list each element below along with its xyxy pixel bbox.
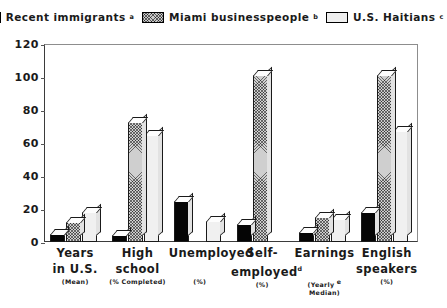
chart-legend: Recent immigrants a Miami businesspeople…: [0, 6, 430, 28]
bar-front-face: [51, 235, 64, 241]
bar-side-face: [142, 113, 147, 236]
y-axis-tick-label-100: 100: [3, 71, 39, 84]
bar-group: [231, 44, 293, 242]
x-label-line1: Unemployed: [169, 246, 231, 261]
x-axis-group-label: Unemployed (%): [169, 246, 231, 286]
bar-miami-businesspeople: [128, 122, 143, 242]
x-label-note: (% Completed): [106, 278, 168, 286]
bar-front-face: [238, 225, 251, 241]
bar-front-face: [362, 213, 375, 241]
legend-footnote-b: b: [313, 13, 318, 21]
y-axis-tick-label-120: 120: [3, 38, 39, 51]
bar-front-face: [113, 236, 126, 241]
bar-group: [106, 44, 168, 242]
legend-footnote-a: a: [130, 13, 134, 21]
x-label-line2: [169, 261, 231, 277]
y-axis-tick-label-60: 60: [3, 137, 39, 150]
bar-front-face: [300, 233, 313, 241]
bar-recent-immigrants: [299, 232, 314, 242]
y-axis-tick-label-40: 40: [3, 170, 39, 183]
x-label-line1: Self-: [231, 246, 293, 261]
x-label-line2: [293, 261, 355, 277]
bar-front-face: [394, 132, 407, 241]
bar-recent-immigrants: [361, 212, 376, 242]
legend-footnote-c: c: [440, 13, 444, 21]
legend-swatch-cross-hatch-icon: [142, 12, 164, 23]
x-label-line1: English: [356, 246, 418, 261]
bar-group: [356, 44, 418, 242]
bar-recent-immigrants: [174, 201, 189, 242]
x-axis-group-label: Highschool(% Completed): [106, 246, 168, 286]
bar-side-face: [391, 67, 396, 236]
x-axis-group-label: Self-employedd(%): [231, 246, 293, 289]
y-axis: 020406080100120: [3, 30, 39, 245]
bar-side-face: [267, 67, 272, 236]
legend-swatch-light-gray-icon: [326, 12, 348, 23]
x-label-note: (Yearly eMedian): [293, 278, 355, 297]
legend-entry-miami-businesspeople: Miami businesspeople b: [142, 11, 322, 23]
bar-group: [293, 44, 355, 242]
x-label-note-line2: Median): [293, 289, 355, 297]
x-label-note: (%): [231, 281, 293, 289]
bar-recent-immigrants: [50, 234, 65, 242]
x-axis: Yearsin U.S.(Mean)Highschool(% Completed…: [44, 246, 418, 308]
bar-front-face: [207, 222, 220, 241]
x-label-line1: High: [106, 246, 168, 261]
bar-recent-immigrants: [237, 224, 252, 242]
x-label-line1: Years: [44, 246, 106, 261]
bar-side-face: [158, 127, 163, 236]
x-label-note: (Mean): [44, 278, 106, 286]
bar-u-s-haitians: [206, 221, 221, 242]
legend-swatch-solid-black-icon: [0, 12, 1, 23]
x-label-line2: school: [106, 261, 168, 277]
bars-layer: [44, 44, 418, 242]
bar-front-face: [378, 76, 391, 241]
bar-front-face: [129, 123, 142, 241]
legend-entry-us-haitians: U.S. Haitians c: [326, 11, 447, 23]
legend-label-miami-businesspeople: Miami businesspeople: [169, 11, 309, 23]
bar-side-face: [407, 123, 412, 236]
bar-recent-immigrants: [112, 235, 127, 242]
y-axis-tick-label-0: 0: [3, 236, 39, 249]
y-axis-tick-label-20: 20: [3, 203, 39, 216]
bar-group: [169, 44, 231, 242]
bar-front-face: [175, 202, 188, 241]
bar-group: [44, 44, 106, 242]
legend-label-us-haitians: U.S. Haitians: [353, 11, 435, 23]
x-axis-group-label: Earnings (Yearly eMedian): [293, 246, 355, 297]
x-label-line2: in U.S.: [44, 261, 106, 277]
x-label-footnote-e: e: [334, 278, 341, 285]
y-axis-tick-label-80: 80: [3, 104, 39, 117]
x-axis-group-label: Englishspeakers(%): [356, 246, 418, 286]
legend-label-recent-immigrants: Recent immigrants: [6, 11, 126, 23]
x-axis-group-label: Yearsin U.S.(Mean): [44, 246, 106, 286]
y-axis-tick-mark-0: [41, 243, 45, 244]
x-label-line2: employedd: [231, 261, 293, 280]
legend-entry-recent-immigrants: Recent immigrants a: [0, 11, 138, 23]
x-label-note: (%): [356, 278, 418, 286]
chart-plot-area: 020406080100120 Yearsin U.S.(Mean)Highsc…: [0, 30, 430, 308]
x-label-note: (%): [169, 278, 231, 286]
x-label-line2: speakers: [356, 261, 418, 277]
x-label-line1: Earnings: [293, 246, 355, 261]
